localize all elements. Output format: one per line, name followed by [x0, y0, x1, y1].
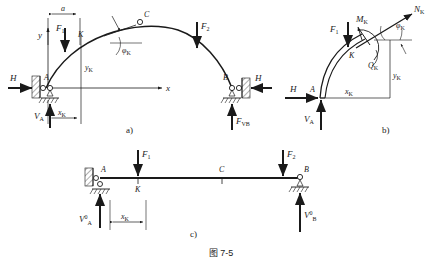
label-f1-a: F1	[55, 23, 65, 34]
panel-tag-b: b)	[382, 125, 390, 135]
label-axis-y: y	[37, 30, 42, 40]
label-point-k-c: K	[134, 185, 141, 194]
label-yk-b: yK	[392, 71, 402, 81]
hinge-c	[137, 19, 142, 24]
label-point-c-c: C	[219, 165, 225, 174]
label-dim-a: a	[61, 4, 65, 13]
label-f1-c: F1	[141, 149, 151, 160]
reaction-fvb-a: FVB	[232, 104, 250, 130]
panel-c: A B C K F1	[79, 149, 317, 239]
reaction-va-a: VA	[34, 104, 50, 128]
moment-mk: MK	[355, 14, 385, 60]
force-f2-a: F2	[197, 21, 210, 48]
arch-curve	[46, 26, 232, 88]
label-mk: MK	[355, 14, 369, 25]
shear-qk: QK	[368, 50, 379, 71]
panel-a: a y x C φK K F1	[8, 4, 272, 135]
label-point-a-c: A	[100, 165, 106, 174]
label-point-a-b: A	[309, 85, 315, 94]
label-yk-a: yK	[84, 63, 94, 73]
label-f2-c: F2	[286, 149, 296, 160]
ordinate-yk-a: yK	[81, 35, 94, 124]
support-b-right: B	[221, 73, 250, 103]
panel-b: K xK yK NK φK MK QK	[285, 4, 425, 135]
dimensions-b: xK yK	[320, 40, 402, 98]
label-fvb-a: FVB	[235, 116, 250, 127]
figure-caption: 图 7-5	[209, 248, 234, 258]
reaction-vb0-c: V0B	[300, 193, 317, 232]
force-f1-c: F1	[138, 149, 151, 176]
force-f1-a: F1	[55, 23, 65, 52]
point-k-c: K	[134, 178, 141, 194]
axis-x: x	[48, 83, 170, 93]
label-f2-a: F2	[200, 21, 210, 32]
reaction-va0-c: V0A	[79, 194, 100, 228]
label-point-k-b: K	[348, 51, 355, 60]
axial-force-nk: NK	[356, 4, 425, 48]
label-h-left: H	[9, 73, 17, 83]
label-xk-a: xK	[57, 108, 67, 118]
label-nk: NK	[413, 4, 425, 15]
point-c-c: C	[219, 165, 225, 184]
label-vb0-c: V0B	[304, 210, 317, 222]
abscissa-xk-c: xK	[110, 200, 146, 230]
figure-canvas: a y x C φK K F1	[0, 0, 442, 262]
figure-7-5: a y x C φK K F1	[0, 0, 442, 262]
label-phik-b: φK	[396, 21, 405, 31]
label-va-b: VA	[304, 114, 315, 125]
label-qk: QK	[368, 61, 379, 71]
label-phi-k-a: φK	[122, 46, 131, 56]
thrust-h-left: H	[8, 73, 32, 88]
label-h-right: H	[254, 73, 262, 83]
support-a-c: A	[85, 165, 110, 194]
label-va-a: VA	[34, 111, 45, 122]
label-va0-c: V0A	[79, 214, 93, 226]
reaction-va-b: VA	[304, 100, 321, 130]
label-h-b: H	[289, 84, 297, 94]
force-f1-b: F1	[329, 22, 348, 47]
panel-tag-c: c)	[190, 229, 197, 239]
abscissa-xk-a: xK	[48, 100, 77, 124]
label-f1-b: F1	[329, 24, 339, 35]
thrust-h-right: H	[251, 73, 272, 88]
label-point-k-a: K	[77, 30, 84, 39]
panel-tag-a: a)	[126, 125, 133, 135]
label-point-b-c: B	[304, 165, 309, 174]
label-point-b: B	[223, 73, 228, 82]
tangent-indicator: φK	[104, 16, 142, 56]
label-xk-c: xK	[120, 212, 130, 222]
label-xk-b: xK	[344, 87, 354, 97]
force-f2-c: F2	[283, 149, 296, 176]
label-axis-x: x	[165, 83, 170, 93]
label-point-c: C	[144, 10, 150, 19]
thrust-h-b: H A	[285, 84, 318, 98]
label-point-a: A	[43, 73, 49, 82]
